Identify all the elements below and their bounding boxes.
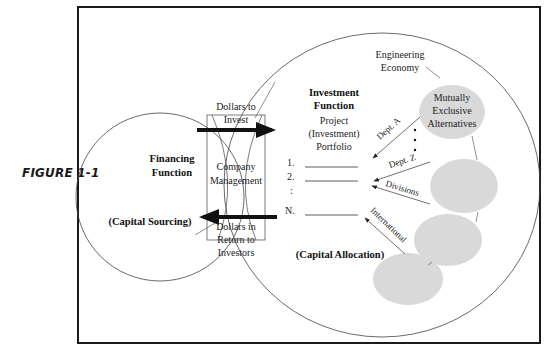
dept-z-label: Dept. Z [388,152,417,170]
dot-1 [414,129,416,131]
investment-title-line2: Function [314,100,354,111]
portfolio-item-1: 1. [287,157,295,168]
portfolio-item-ellipsis: : [290,185,293,196]
financing-title-line2: Function [152,167,192,178]
portfolio-item-2: 2. [287,171,295,182]
financing-title-line1: Financing [150,153,196,164]
international-label: International [369,205,409,244]
portfolio-item-n: N. [285,205,295,216]
portfolio-line1: Project [320,115,349,126]
leader-to-invest [255,82,275,118]
engineering-line2: Economy [381,62,419,73]
engineering-leader [426,67,440,78]
diagram-canvas: Financing Function (Capital Sourcing) Do… [0,0,547,351]
engineering-line1: Engineering [376,49,425,60]
return-line2: Return to [217,234,255,245]
mutually-line1: Mutually [434,92,471,103]
financing-subtitle: (Capital Sourcing) [109,216,192,228]
mutually-line2: Exclusive [432,105,472,116]
mutually-line3: Alternatives [428,118,477,129]
connector-2-3 [476,212,478,222]
investment-title-line1: Investment [309,87,360,98]
portfolio-line3: Portfolio [316,141,352,152]
return-line1: Dollars in [216,221,256,232]
to-invest-line2: Invest [224,114,249,125]
to-invest-line1: Dollars to [216,101,256,112]
dot-3 [414,149,416,151]
connector-1-2 [472,136,477,160]
company-line2: Management [210,175,262,186]
leader-return [195,223,215,235]
company-line1: Company [217,161,256,172]
portfolio-line2: (Investment) [308,128,359,140]
dept-a-label: Dept. A [375,115,403,142]
alternative-ellipse-4 [373,253,443,305]
alternative-ellipse-2 [430,159,498,213]
return-line3: Investors [218,247,255,258]
dot-2 [414,139,416,141]
investment-subtitle: (Capital Allocation) [296,249,385,261]
